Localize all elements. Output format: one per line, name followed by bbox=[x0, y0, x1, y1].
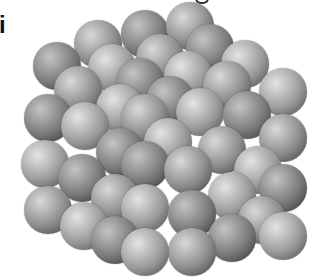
sphere bbox=[259, 212, 307, 260]
sphere-lattice-illustration bbox=[0, 0, 314, 278]
sphere bbox=[168, 228, 216, 276]
sphere bbox=[121, 228, 169, 276]
sphere bbox=[164, 146, 212, 194]
